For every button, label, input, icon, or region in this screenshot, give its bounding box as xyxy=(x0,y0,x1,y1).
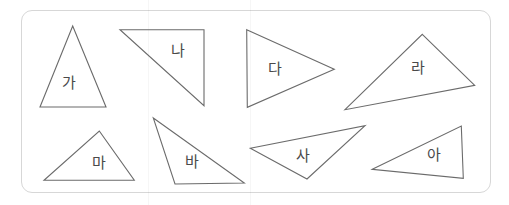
triangle-na[interactable] xyxy=(120,30,204,106)
triangle-ra[interactable] xyxy=(345,34,475,109)
triangle-ma[interactable] xyxy=(44,131,134,180)
triangle-ga-label: 가 xyxy=(62,76,76,91)
triangle-shapes-svg xyxy=(0,0,509,205)
triangle-a[interactable] xyxy=(372,126,463,178)
triangle-ba[interactable] xyxy=(153,118,244,184)
triangle-sa-label: 사 xyxy=(296,149,310,164)
triangle-na-label: 나 xyxy=(171,44,185,59)
triangle-ra-label: 라 xyxy=(411,61,425,76)
triangle-ga[interactable] xyxy=(40,26,106,107)
triangle-ma-label: 마 xyxy=(92,156,106,171)
triangle-ba-label: 바 xyxy=(185,155,199,170)
triangle-a-label: 아 xyxy=(427,148,441,163)
worksheet-canvas: 가나다라마바사아 xyxy=(0,0,509,205)
triangle-da-label: 다 xyxy=(268,62,282,77)
triangle-da[interactable] xyxy=(247,30,335,108)
